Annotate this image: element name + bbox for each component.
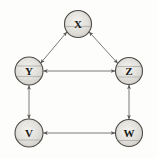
graph-figure: X Y Z V bbox=[0, 0, 157, 158]
node-y[interactable]: Y bbox=[15, 57, 43, 85]
edge-group bbox=[29, 32, 129, 133]
node-z-label: Z bbox=[125, 65, 133, 77]
node-group: X Y Z V bbox=[15, 11, 143, 148]
node-w-label: W bbox=[123, 127, 134, 139]
node-x[interactable]: X bbox=[65, 11, 92, 38]
node-x-label: X bbox=[74, 18, 82, 30]
edge-x-z bbox=[89, 32, 117, 63]
node-v-label: V bbox=[25, 127, 33, 139]
node-y-label: Y bbox=[25, 65, 33, 77]
node-z[interactable]: Z bbox=[116, 58, 143, 85]
node-w[interactable]: W bbox=[116, 120, 143, 147]
edge-y-x bbox=[41, 32, 67, 63]
node-v[interactable]: V bbox=[15, 119, 43, 147]
graph-canvas: X Y Z V bbox=[0, 0, 157, 158]
